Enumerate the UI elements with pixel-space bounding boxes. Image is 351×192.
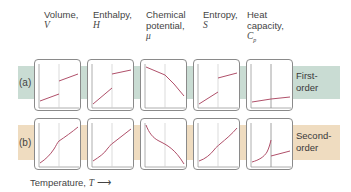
column-header-volume: Volume, V bbox=[44, 9, 78, 31]
plot-a-enthalpy bbox=[88, 60, 135, 112]
column-header-enthalpy: Enthalpy, H bbox=[93, 9, 132, 31]
x-axis-label: Temperature, T ⟶ bbox=[30, 177, 111, 188]
order-text: order bbox=[296, 82, 318, 94]
header-symbol: S bbox=[203, 20, 238, 31]
panel-b-heat-capacity bbox=[246, 118, 293, 170]
column-header-heat-capacity: Heat capacity, Cp bbox=[247, 9, 284, 46]
second-order-label: Second- order bbox=[296, 130, 331, 154]
header-text: Volume, bbox=[44, 9, 78, 20]
header-symbol: H bbox=[93, 20, 132, 31]
x-axis-text: Temperature, bbox=[30, 177, 86, 188]
header-text: potential, bbox=[146, 20, 186, 31]
panel-b-volume bbox=[34, 118, 81, 170]
panel-a-enthalpy bbox=[87, 59, 134, 111]
panel-b-enthalpy bbox=[87, 118, 134, 170]
plot-b-volume bbox=[35, 119, 82, 171]
header-text: Heat bbox=[247, 9, 284, 20]
order-text: First- bbox=[296, 70, 318, 82]
header-text: Enthalpy, bbox=[93, 9, 132, 20]
plot-b-chemical-potential bbox=[141, 119, 188, 171]
order-text: Second- bbox=[296, 130, 331, 142]
plot-a-volume bbox=[35, 60, 82, 112]
row-label-b: (b) bbox=[19, 137, 31, 148]
panel-a-volume bbox=[34, 59, 81, 111]
header-symbol: Cp bbox=[247, 31, 284, 46]
plot-b-heat-capacity bbox=[247, 119, 294, 171]
header-symbol: μ bbox=[146, 31, 186, 42]
order-text: order bbox=[296, 142, 331, 154]
header-text: Entropy, bbox=[203, 9, 238, 20]
arrow-right-icon: ⟶ bbox=[97, 177, 111, 188]
panel-b-entropy bbox=[193, 118, 240, 170]
panel-a-entropy bbox=[193, 59, 240, 111]
x-axis-symbol: T bbox=[89, 178, 94, 188]
panel-b-chemical-potential bbox=[140, 118, 187, 170]
first-order-label: First- order bbox=[296, 70, 318, 94]
plot-a-heat-capacity bbox=[247, 60, 294, 112]
plot-a-entropy bbox=[194, 60, 241, 112]
header-text: capacity, bbox=[247, 20, 284, 31]
column-header-chemical-potential: Chemical potential, μ bbox=[146, 9, 186, 42]
plot-b-entropy bbox=[194, 119, 241, 171]
row-label-a: (a) bbox=[19, 77, 31, 88]
column-header-entropy: Entropy, S bbox=[203, 9, 238, 31]
panel-a-heat-capacity bbox=[246, 59, 293, 111]
panel-a-chemical-potential bbox=[140, 59, 187, 111]
header-text: Chemical bbox=[146, 9, 186, 20]
plot-b-enthalpy bbox=[88, 119, 135, 171]
plot-a-chemical-potential bbox=[141, 60, 188, 112]
header-symbol: V bbox=[44, 20, 78, 31]
